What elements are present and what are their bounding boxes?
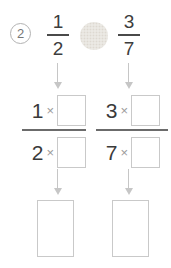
work-right-fraction-bar	[96, 129, 168, 131]
work-left-numerator-input-box[interactable]	[57, 95, 86, 126]
multiply-icon: ×	[46, 146, 54, 159]
problem-number: 2	[17, 26, 24, 41]
multiply-icon: ×	[120, 104, 128, 117]
work-group-right: 3 × 7 ×	[96, 93, 168, 170]
work-left-denominator-factor: 2	[32, 142, 44, 163]
fraction-left-denominator: 2	[44, 38, 72, 59]
fraction-left: 1 2	[44, 11, 72, 59]
fraction-right: 3 7	[115, 11, 143, 59]
down-arrow-icon	[53, 63, 62, 89]
down-arrow-icon	[124, 169, 133, 195]
answer-box-right[interactable]	[112, 200, 149, 257]
down-arrow-icon	[53, 169, 62, 195]
work-left-numerator-row: 1 ×	[22, 93, 86, 127]
fraction-right-denominator: 7	[115, 38, 143, 59]
work-right-denominator-row: 7 ×	[96, 136, 168, 170]
comparison-placeholder-circle[interactable]	[80, 22, 108, 50]
work-right-numerator-row: 3 ×	[96, 93, 168, 127]
work-left-denominator-row: 2 ×	[22, 136, 86, 170]
worksheet-problem: 2 1 2 3 7 1 × 2 × 3 ×	[0, 0, 171, 268]
multiply-icon: ×	[46, 104, 54, 117]
fraction-right-bar	[118, 34, 140, 36]
work-left-denominator-input-box[interactable]	[57, 137, 86, 168]
work-right-denominator-factor: 7	[106, 142, 118, 163]
work-group-left: 1 × 2 ×	[22, 93, 86, 170]
work-right-numerator-factor: 3	[106, 100, 118, 121]
work-left-fraction-bar	[22, 129, 86, 131]
work-right-denominator-input-box[interactable]	[131, 137, 160, 168]
work-left-numerator-factor: 1	[32, 100, 44, 121]
problem-number-badge: 2	[10, 23, 31, 44]
fraction-left-bar	[47, 34, 69, 36]
down-arrow-icon	[124, 63, 133, 89]
fraction-left-numerator: 1	[44, 11, 72, 32]
work-right-numerator-input-box[interactable]	[131, 95, 160, 126]
answer-box-left[interactable]	[37, 200, 74, 257]
multiply-icon: ×	[120, 146, 128, 159]
fraction-right-numerator: 3	[115, 11, 143, 32]
